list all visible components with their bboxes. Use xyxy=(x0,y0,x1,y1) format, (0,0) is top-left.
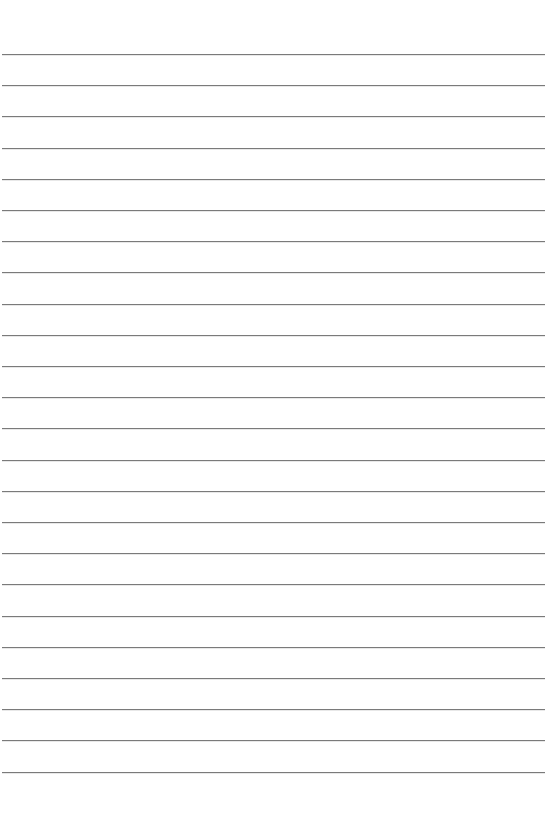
ruled-line xyxy=(2,397,545,398)
ruled-line xyxy=(2,85,545,86)
ruled-line xyxy=(2,304,545,305)
ruled-line xyxy=(2,772,545,773)
lined-paper-sheet xyxy=(0,0,548,834)
ruled-line xyxy=(2,179,545,180)
ruled-line xyxy=(2,335,545,336)
ruled-line xyxy=(2,740,545,741)
ruled-line xyxy=(2,522,545,523)
ruled-line xyxy=(2,366,545,367)
ruled-line xyxy=(2,584,545,585)
ruled-line xyxy=(2,241,545,242)
ruled-line xyxy=(2,491,545,492)
ruled-line xyxy=(2,54,545,55)
ruled-line xyxy=(2,553,545,554)
ruled-line xyxy=(2,428,545,429)
ruled-line xyxy=(2,272,545,273)
ruled-line xyxy=(2,678,545,679)
ruled-line xyxy=(2,148,545,149)
ruled-line xyxy=(2,616,545,617)
ruled-line xyxy=(2,709,545,710)
ruled-line xyxy=(2,116,545,117)
ruled-line xyxy=(2,210,545,211)
ruled-line xyxy=(2,460,545,461)
ruled-line xyxy=(2,647,545,648)
